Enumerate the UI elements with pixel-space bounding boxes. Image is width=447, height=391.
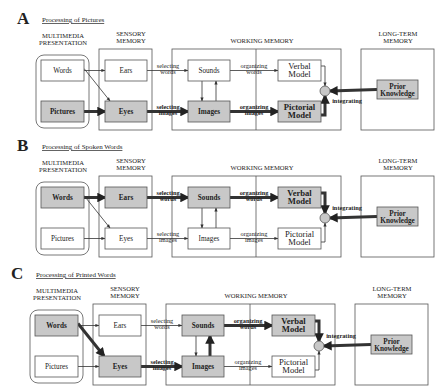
node-label-sounds: Sounds (198, 194, 221, 202)
header-long-term-memory: LONG-TERMMEMORY (379, 30, 418, 44)
header-working-memory: WORKING MEMORY (225, 292, 288, 299)
header-working-memory: WORKING MEMORY (231, 37, 294, 44)
node-label-eyes: Eyes (113, 363, 128, 371)
edge-label-selecting-images: selectingimages (157, 230, 180, 244)
header-multimedia-presentation: MULTIMEDIAPRESENTATION (33, 287, 81, 301)
header-long-term-memory: LONG-TERMMEMORY (373, 285, 412, 299)
node-label-ears: Ears (120, 67, 133, 75)
edge-label-organizing-images: organizingimages (240, 103, 270, 117)
header-sensory-memory: SENSORYMEMORY (110, 285, 140, 299)
header-working-memory: WORKING MEMORY (231, 164, 294, 171)
node-label-verbal: VerbalModel (287, 188, 312, 207)
integration-node (314, 341, 324, 351)
arrow-verbal-to-integration (321, 193, 325, 213)
header-sensory-memory: SENSORYMEMORY (116, 30, 146, 44)
node-label-images: Images (199, 235, 220, 243)
header-multimedia-presentation: MULTIMEDIAPRESENTATION (39, 32, 87, 46)
node-label-pictures: Pictures (51, 235, 74, 243)
panel-c: CProcessing of Printed WordsMULTIMEDIAPR… (11, 264, 428, 385)
edge-label-integrating: integrating (326, 332, 357, 339)
header-sensory-memory: SENSORYMEMORY (116, 157, 146, 171)
node-label-ears: Ears (114, 322, 127, 330)
panel-title: Processing of Pictures (42, 16, 104, 24)
panel-a: AProcessing of PicturesMULTIMEDIAPRESENT… (17, 9, 434, 130)
node-label-sounds: Sounds (198, 67, 219, 75)
panels-container: AProcessing of PicturesMULTIMEDIAPRESENT… (11, 9, 434, 385)
arrow-pictorial-to-integration (321, 223, 325, 242)
node-label-images: Images (192, 363, 214, 371)
edge-label-organizing-words: organizingwords (234, 317, 264, 331)
edge-label-organizing-words: organizingwords (241, 62, 269, 76)
node-label-verbal: VerbalModel (281, 316, 306, 335)
arrow-verbal-to-integration (321, 66, 325, 86)
arrow-verbal-to-integration (315, 321, 319, 341)
node-label-words: Words (53, 67, 72, 75)
node-label-pictures: Pictures (50, 108, 75, 116)
node-label-eyes: Eyes (119, 235, 133, 243)
arrow-prior-to-integration (330, 90, 377, 92)
panel-letter: A (17, 9, 30, 28)
node-label-words: Words (52, 194, 73, 202)
edge-label-selecting-words: selectingwords (157, 62, 180, 76)
panel-title: Processing of Spoken Words (42, 143, 123, 151)
header-long-term-memory: LONG-TERMMEMORY (379, 157, 418, 171)
integration-node (320, 213, 330, 223)
node-label-pictorial: PictorialModel (279, 357, 309, 376)
node-label-words: Words (46, 322, 67, 330)
edge-label-organizing-images: organizingimages (241, 230, 269, 244)
panel-letter: B (17, 136, 28, 155)
arrow-prior-to-integration (324, 345, 371, 347)
integration-node (320, 86, 330, 96)
node-label-verbal: VerbalModel (288, 61, 311, 80)
edge-label-organizing-images: organizingimages (235, 358, 263, 372)
node-label-pictorial: PictorialModel (285, 229, 315, 248)
panel-b: BProcessing of Spoken WordsMULTIMEDIAPRE… (17, 136, 434, 257)
node-label-pictorial: PictorialModel (284, 102, 316, 121)
edge-label-integrating: integrating (332, 204, 363, 211)
edge-label-selecting-images: selectingimages (156, 103, 180, 117)
edge-label-integrating: integrating (332, 97, 363, 104)
arrow-prior-to-integration (330, 217, 377, 219)
panel-letter: C (11, 264, 23, 283)
node-label-images: Images (198, 108, 220, 116)
node-label-eyes: Eyes (119, 108, 134, 116)
arrow-pictorial-to-integration (315, 351, 319, 370)
edge-label-selecting-words: selectingwords (156, 189, 180, 203)
panel-title: Processing of Printed Words (36, 271, 116, 279)
node-label-sounds: Sounds (192, 322, 215, 330)
edge-label-selecting-words: selectingwords (151, 317, 174, 331)
arrow-pictorial-to-integration (321, 96, 325, 115)
edge-label-selecting-images: selectingimages (150, 358, 174, 372)
edge-label-organizing-words: organizingwords (240, 189, 270, 203)
multimedia-learning-diagram: AProcessing of PicturesMULTIMEDIAPRESENT… (0, 0, 447, 391)
node-label-pictures: Pictures (45, 363, 68, 371)
header-multimedia-presentation: MULTIMEDIAPRESENTATION (39, 159, 87, 173)
node-label-ears: Ears (119, 194, 134, 202)
